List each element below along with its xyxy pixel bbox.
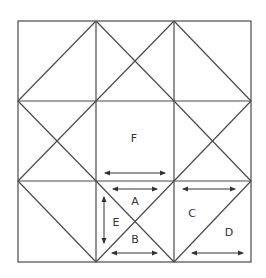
diagonal-top-right: [174, 21, 251, 101]
diagonal-bottom-right: [174, 181, 251, 262]
diagonal-top-left: [18, 21, 96, 101]
label-A: A: [131, 196, 139, 207]
label-E: E: [113, 217, 120, 228]
diagonal-bottom-left: [18, 181, 96, 262]
label-D: D: [225, 227, 233, 238]
label-B: B: [131, 234, 139, 245]
label-C: C: [188, 208, 196, 219]
label-F: F: [131, 133, 137, 144]
